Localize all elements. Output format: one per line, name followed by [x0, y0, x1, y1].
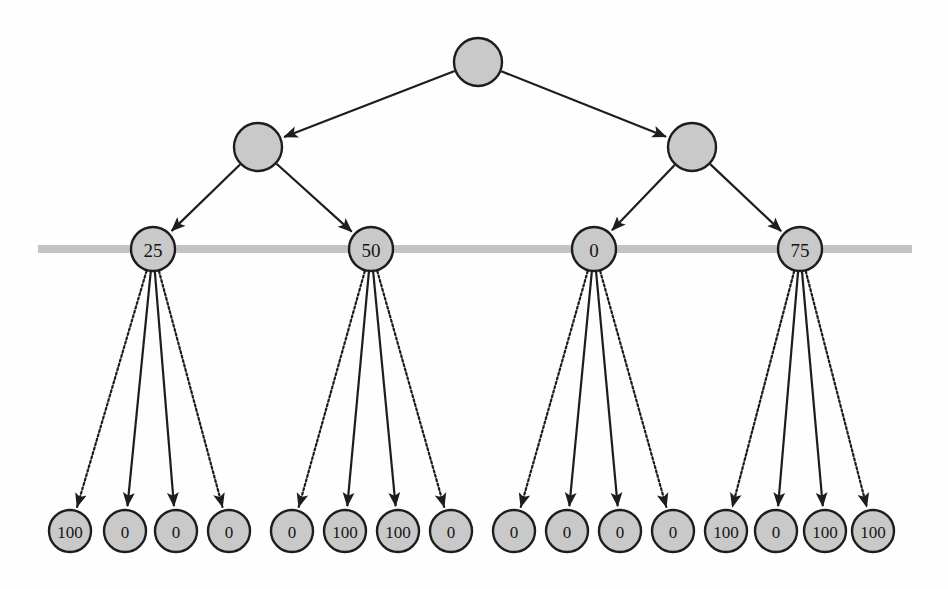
node-label: 100: [713, 523, 739, 542]
tree-edge-n3d-to-l16: [806, 271, 867, 507]
tree-node-n2b[interactable]: [668, 123, 716, 171]
node-circle[interactable]: [668, 123, 716, 171]
leaf-node-l14[interactable]: 0: [755, 510, 797, 552]
tree-edge-n2a-to-n3b: [277, 164, 352, 232]
node-label: 0: [288, 523, 297, 542]
tree-diagram: 25500751000000100100000001000100100: [0, 0, 948, 589]
node-label: 0: [172, 523, 181, 542]
tree-edge-root-to-n2a: [284, 71, 455, 137]
node-label: 0: [616, 523, 625, 542]
node-circle[interactable]: [234, 123, 282, 171]
node-label: 0: [121, 523, 130, 542]
node-label: 0: [563, 523, 572, 542]
tree-edge-n3c-to-l12: [600, 271, 666, 507]
tree-node-n3d[interactable]: 75: [778, 227, 822, 271]
tree-edge-n2b-to-n3c: [612, 165, 675, 230]
leaf-node-l4[interactable]: 0: [208, 510, 250, 552]
tree-edge-n3b-to-l6: [347, 272, 369, 506]
leaf-node-l6[interactable]: 100: [324, 510, 366, 552]
tree-edge-n2a-to-n3a: [172, 164, 240, 230]
node-label: 100: [385, 523, 411, 542]
leaf-node-l13[interactable]: 100: [705, 510, 747, 552]
leaf-node-l10[interactable]: 0: [546, 510, 588, 552]
node-label: 100: [57, 523, 83, 542]
node-label: 25: [144, 240, 163, 261]
node-label: 100: [812, 523, 838, 542]
nodes-layer: 25500751000000100100000001000100100: [49, 38, 894, 552]
tree-node-n2a[interactable]: [234, 123, 282, 171]
node-label: 50: [362, 240, 381, 261]
tree-edge-n3c-to-l10: [569, 272, 591, 506]
tree-node-n3a[interactable]: 25: [131, 227, 175, 271]
leaf-node-l11[interactable]: 0: [599, 510, 641, 552]
leaf-node-l3[interactable]: 0: [155, 510, 197, 552]
leaf-node-l15[interactable]: 100: [804, 510, 846, 552]
leaf-node-l16[interactable]: 100: [852, 510, 894, 552]
leaf-node-l7[interactable]: 100: [377, 510, 419, 552]
tree-node-n3b[interactable]: 50: [349, 227, 393, 271]
tree-edge-n2b-to-n3d: [710, 164, 781, 231]
tree-edge-n3d-to-l15: [802, 272, 823, 506]
tree-edge-n3b-to-l5: [299, 271, 365, 507]
node-circle[interactable]: [454, 38, 502, 86]
node-label: 0: [589, 240, 599, 261]
tree-edge-root-to-n2b: [501, 71, 666, 136]
diagram-canvas: 25500751000000100100000001000100100: [0, 0, 948, 589]
tree-edge-n3d-to-l13: [732, 271, 794, 507]
tree-edge-n3b-to-l8: [377, 271, 444, 507]
edges-layer: [77, 71, 867, 507]
tree-edge-n3a-to-l4: [159, 271, 223, 507]
node-label: 100: [860, 523, 886, 542]
node-label: 0: [772, 523, 781, 542]
leaf-node-l9[interactable]: 0: [493, 510, 535, 552]
tree-edge-n3a-to-l1: [77, 271, 146, 507]
node-label: 0: [669, 523, 678, 542]
node-label: 0: [225, 523, 234, 542]
tree-edge-n3d-to-l14: [778, 272, 798, 506]
node-label: 0: [510, 523, 519, 542]
tree-node-root[interactable]: [454, 38, 502, 86]
leaf-node-l5[interactable]: 0: [271, 510, 313, 552]
tree-edge-n3c-to-l11: [596, 272, 618, 506]
leaf-node-l1[interactable]: 100: [49, 510, 91, 552]
leaf-node-l8[interactable]: 0: [430, 510, 472, 552]
tree-edge-n3a-to-l2: [127, 272, 150, 506]
tree-edge-n3a-to-l3: [155, 272, 174, 506]
tree-edge-n3b-to-l7: [373, 272, 395, 506]
tree-edge-n3c-to-l9: [521, 271, 588, 507]
node-label: 100: [332, 523, 358, 542]
tree-node-n3c[interactable]: 0: [572, 227, 616, 271]
node-label: 0: [447, 523, 456, 542]
leaf-node-l12[interactable]: 0: [652, 510, 694, 552]
leaf-node-l2[interactable]: 0: [104, 510, 146, 552]
node-label: 75: [791, 240, 810, 261]
